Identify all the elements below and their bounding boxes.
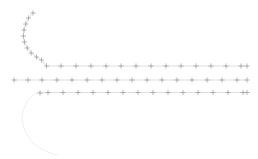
data-point-marker [180,90,185,95]
trace-line-trace-3-flat [40,93,247,94]
data-point-marker [178,63,183,68]
data-point-marker [244,63,249,68]
data-point-marker [45,90,50,95]
data-point-marker [90,90,95,95]
data-point-marker [210,90,215,95]
data-point-marker [225,90,230,95]
trace-line-trace-1-elbow [23,13,247,66]
data-point-marker [103,63,108,68]
line-layer [14,13,247,93]
data-point-marker [238,63,243,68]
data-point-marker [150,90,155,95]
data-point-marker [114,77,119,82]
data-point-marker [148,63,153,68]
data-point-marker [21,27,26,32]
data-point-marker [244,77,249,82]
data-point-marker [129,77,134,82]
data-point-marker [189,77,194,82]
data-point-marker [163,63,168,68]
data-point-marker [135,90,140,95]
marker-layer [11,10,249,95]
data-point-marker [84,77,89,82]
data-point-marker [58,63,63,68]
data-point-marker [75,90,80,95]
data-point-marker [165,90,170,95]
data-point-marker [244,90,249,95]
data-point-marker [25,77,30,82]
data-point-marker [73,63,78,68]
data-point-marker [133,63,138,68]
data-point-marker [223,63,228,68]
plot-svg [0,0,258,159]
ghost-arc-lower-left [22,91,57,155]
data-point-marker [204,77,209,82]
data-point-marker [69,77,74,82]
data-point-marker [23,21,28,26]
data-point-marker [88,63,93,68]
data-point-marker [105,90,110,95]
data-point-marker [120,90,125,95]
data-point-marker [174,77,179,82]
data-point-marker [11,77,16,82]
data-point-marker [118,63,123,68]
ghost-layer [22,91,57,155]
data-point-marker [193,63,198,68]
plot-canvas [0,0,258,159]
data-point-marker [219,77,224,82]
data-point-marker [39,77,44,82]
data-point-marker [144,77,149,82]
data-point-marker [195,90,200,95]
data-point-marker [34,54,39,59]
data-point-marker [234,77,239,82]
data-point-marker [60,90,65,95]
data-point-marker [159,77,164,82]
data-point-marker [22,39,27,44]
data-point-marker [21,33,26,38]
data-point-marker [99,77,104,82]
data-point-marker [54,77,59,82]
data-point-marker [37,90,42,95]
data-point-marker [208,63,213,68]
